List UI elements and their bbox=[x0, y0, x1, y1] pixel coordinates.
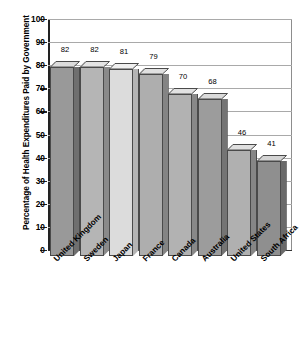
bar-value-label-5: 68 bbox=[196, 78, 230, 86]
y-tick-label-30: 30 bbox=[19, 177, 45, 185]
y-tick-label-100: 100 bbox=[19, 15, 45, 23]
y-tick-label-70: 70 bbox=[19, 84, 45, 92]
bar-australia bbox=[198, 93, 228, 256]
y-tick-label-90: 90 bbox=[19, 38, 45, 46]
bar-value-label-7: 41 bbox=[255, 140, 289, 148]
y-tick-label-10: 10 bbox=[19, 223, 45, 231]
bar-united-kingdom bbox=[50, 61, 80, 256]
bar-front-face bbox=[139, 74, 163, 256]
gridline-90 bbox=[48, 42, 292, 43]
bar-chart: Percentage of Health Expenditures Paid b… bbox=[0, 0, 307, 353]
bar-value-label-3: 79 bbox=[137, 53, 171, 61]
y-tick-label-0: 0 bbox=[19, 246, 45, 254]
y-tick-label-60: 60 bbox=[19, 107, 45, 115]
y-tick-label-80: 80 bbox=[19, 61, 45, 69]
bar-front-face bbox=[109, 69, 133, 256]
bar-value-label-6: 46 bbox=[225, 129, 259, 137]
bar-front-face bbox=[198, 99, 222, 256]
bar-france bbox=[139, 68, 169, 256]
bar-canada bbox=[168, 88, 198, 256]
bar-japan bbox=[109, 63, 139, 256]
bar-front-face bbox=[50, 67, 74, 256]
bar-front-face bbox=[168, 94, 192, 256]
y-tick-label-40: 40 bbox=[19, 154, 45, 162]
y-tick-label-20: 20 bbox=[19, 200, 45, 208]
gridline-100 bbox=[48, 19, 292, 20]
y-tick-label-50: 50 bbox=[19, 131, 45, 139]
